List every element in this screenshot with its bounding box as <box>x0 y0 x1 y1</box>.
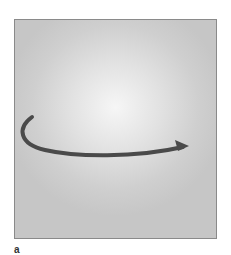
figure-panel <box>14 19 217 239</box>
rotation-arrow-icon <box>15 20 218 240</box>
panel-label: a <box>14 244 20 255</box>
